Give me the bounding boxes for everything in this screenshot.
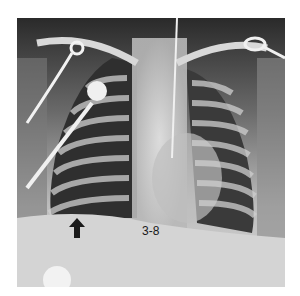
chest-xray-image bbox=[17, 18, 285, 287]
xray-illustration bbox=[17, 18, 285, 287]
arrow-up-icon bbox=[69, 218, 85, 238]
figure-label: 3-8 bbox=[142, 224, 159, 238]
